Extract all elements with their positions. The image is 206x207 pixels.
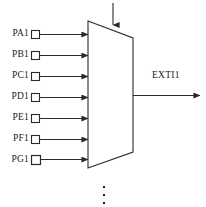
input-rows — [32, 31, 89, 165]
mux-trapezoid-outline — [88, 21, 133, 168]
ellipsis-dot — [103, 186, 105, 188]
ellipsis-dot — [103, 194, 105, 196]
pin-square-pc1 — [32, 73, 40, 81]
port-label-pf1: PF1 — [2, 134, 29, 144]
input-row-pa1 — [32, 31, 89, 39]
pin-square-pb1 — [32, 52, 40, 60]
port-label-pd1: PD1 — [2, 92, 29, 102]
port-label-pe1: PE1 — [2, 113, 29, 123]
mux-body — [88, 21, 133, 168]
ellipsis-dot — [103, 202, 105, 204]
input-row-pf1 — [32, 136, 89, 144]
input-row-pg1 — [32, 156, 89, 165]
pin-square-pd1 — [32, 94, 40, 102]
pin-square-pe1 — [32, 115, 40, 123]
vertical-ellipsis-icon — [96, 186, 112, 204]
input-row-pe1 — [32, 115, 89, 123]
port-label-pg1: PG1 — [2, 155, 29, 165]
port-label-pb1: PB1 — [2, 50, 29, 60]
input-row-pd1 — [32, 94, 89, 102]
pin-square-pg1 — [32, 156, 41, 165]
pin-square-pa1 — [32, 31, 40, 39]
input-row-pc1 — [32, 73, 89, 81]
port-label-pc1: PC1 — [2, 71, 29, 81]
input-row-pb1 — [32, 52, 89, 60]
diagram-canvas — [0, 0, 206, 207]
pin-square-pf1 — [32, 136, 40, 144]
output-label-exti1: EXTI1 — [152, 71, 180, 81]
port-label-pa1: PA1 — [2, 29, 29, 39]
exti-mux-diagram: PA1 PB1 PC1 PD1 PE1 PF1 PG1 EXTI1 — [0, 0, 206, 207]
